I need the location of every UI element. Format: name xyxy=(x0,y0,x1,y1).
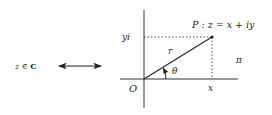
complex-set-symbol: C xyxy=(30,61,36,71)
origin-label: O xyxy=(129,84,137,94)
set-membership-label: z ∈ C xyxy=(15,62,37,71)
point-p xyxy=(210,35,213,38)
point-label: P : z = x + iy xyxy=(192,20,254,30)
y-tick-label: yi xyxy=(122,33,130,42)
plane-label: π xyxy=(236,56,242,65)
x-tick-label: x xyxy=(208,84,213,93)
complex-plane-diagram xyxy=(0,0,272,115)
variable-z: z xyxy=(15,62,19,71)
element-of-symbol: ∈ xyxy=(22,62,28,71)
radius-vector xyxy=(144,37,212,79)
angle-arc xyxy=(164,69,167,80)
radius-label: r xyxy=(168,47,172,56)
angle-label: θ xyxy=(172,67,177,76)
